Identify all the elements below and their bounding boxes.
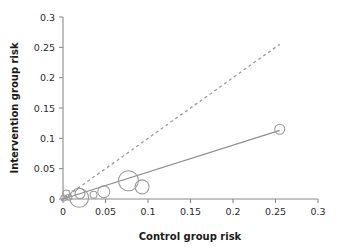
data-point-bubble xyxy=(275,124,285,134)
data-point-bubble xyxy=(90,191,97,198)
chart-figure: 00.050.10.150.20.250.300.050.10.150.20.2… xyxy=(0,0,337,250)
y-axis-title: Intervention group risk xyxy=(9,42,20,173)
x-axis-title: Control group risk xyxy=(139,231,242,242)
tick-labels: 00.050.10.150.20.250.300.050.10.150.20.2… xyxy=(34,12,326,218)
x-tick-label: 0.3 xyxy=(310,206,325,217)
data-point-bubble xyxy=(135,180,149,194)
y-tick-label: 0.2 xyxy=(40,72,55,83)
x-tick-label: 0.1 xyxy=(140,206,155,217)
data-point-bubble xyxy=(98,186,110,198)
line-of-equality xyxy=(63,44,280,199)
x-tick-label: 0.15 xyxy=(180,206,201,217)
y-tick-label: 0.25 xyxy=(34,42,55,53)
series-layer xyxy=(63,44,280,199)
x-axis-ticks xyxy=(63,199,318,203)
data-point-bubble xyxy=(70,188,89,207)
y-tick-label: 0.15 xyxy=(34,103,55,114)
x-tick-label: 0.05 xyxy=(95,206,116,217)
scatter-plot: 00.050.10.150.20.250.300.050.10.150.20.2… xyxy=(0,0,337,250)
bubble-markers xyxy=(61,124,285,207)
x-tick-label: 0.25 xyxy=(265,206,286,217)
y-tick-label: 0.3 xyxy=(40,12,55,23)
x-tick-label: 0 xyxy=(60,206,66,217)
regression-line xyxy=(63,130,280,199)
y-tick-label: 0.05 xyxy=(34,163,55,174)
y-tick-label: 0 xyxy=(49,194,55,205)
y-axis-ticks xyxy=(59,17,63,199)
y-tick-label: 0.1 xyxy=(40,133,55,144)
x-tick-label: 0.2 xyxy=(225,206,240,217)
